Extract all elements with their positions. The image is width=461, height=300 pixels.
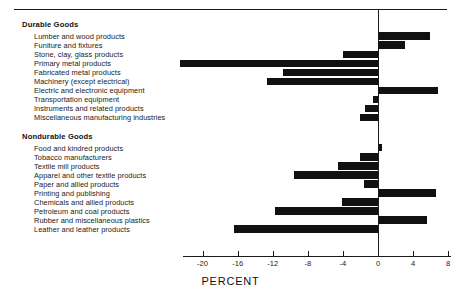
- bar: [338, 162, 378, 170]
- category-label: Chemicals and allied products: [34, 198, 134, 207]
- group-heading-durable: Durable Goods: [22, 20, 78, 29]
- category-label: Leather and leather products: [34, 225, 130, 234]
- x-axis-tick-label: -8: [293, 259, 323, 268]
- bar: [378, 41, 405, 49]
- x-axis-tick-label: 0: [363, 259, 393, 268]
- bar: [294, 171, 378, 179]
- category-label: Paper and allied products: [34, 180, 119, 189]
- bar: [342, 198, 378, 206]
- bar: [365, 105, 378, 113]
- category-label: Machinery (except electrical): [34, 77, 130, 86]
- x-axis-tick-label: 4: [398, 259, 428, 268]
- x-axis-tick-label: -4: [328, 259, 358, 268]
- bar: [378, 216, 427, 224]
- category-label: Printing and publishing: [34, 189, 110, 198]
- bar: [364, 180, 378, 188]
- x-axis-tick: [273, 251, 274, 256]
- category-label: Fabricated metal products: [34, 68, 121, 77]
- category-label: Lumber and wood products: [34, 32, 125, 41]
- category-label: Primary metal products: [34, 59, 111, 68]
- group-heading-nondurable: Nondurable Goods: [22, 132, 93, 141]
- category-label: Instruments and related products: [34, 104, 144, 113]
- bar: [360, 153, 378, 161]
- x-axis-tick: [378, 251, 379, 256]
- category-label: Miscellaneous manufacturing industries: [34, 113, 165, 122]
- x-axis-tick-label: -20: [188, 259, 218, 268]
- x-axis-tick: [203, 251, 204, 256]
- x-axis-tick-label: -16: [223, 259, 253, 268]
- plot-area: Durable GoodsLumber and wood productsFun…: [0, 0, 461, 300]
- x-axis-tick: [238, 251, 239, 256]
- bar: [360, 114, 378, 122]
- category-label: Electric and electronic equipment: [34, 86, 145, 95]
- category-label: Food and kindred products: [34, 144, 123, 153]
- x-axis-tick-label: -12: [258, 259, 288, 268]
- category-label: Petroleum and coal products: [34, 207, 129, 216]
- bar: [267, 78, 378, 86]
- bar: [275, 207, 378, 215]
- category-label: Transportation equipment: [34, 95, 119, 104]
- x-axis-tick: [343, 251, 344, 256]
- x-axis-tick-label: 8: [433, 259, 461, 268]
- bar: [234, 225, 378, 233]
- bar: [378, 87, 438, 95]
- x-axis-tick: [413, 251, 414, 256]
- x-axis-tick: [448, 251, 449, 256]
- category-label: Textile mill products: [34, 162, 100, 171]
- category-label: Stone, clay, glass products: [34, 50, 123, 59]
- category-label: Apparel and other textile products: [34, 171, 146, 180]
- x-axis-tick: [308, 251, 309, 256]
- zero-axis-line: [378, 9, 379, 256]
- bar: [283, 69, 378, 77]
- bar: [343, 51, 378, 59]
- x-axis-title: PERCENT: [0, 275, 461, 287]
- bar: [180, 60, 378, 68]
- category-label: Funiture and fixtures: [34, 41, 102, 50]
- category-label: Rubber and miscellaneous plastics: [34, 216, 150, 225]
- bar: [378, 32, 430, 40]
- category-label: Tobacco manufacturers: [34, 153, 112, 162]
- bar-chart: Durable GoodsLumber and wood productsFun…: [0, 0, 461, 300]
- bar: [378, 189, 436, 197]
- x-axis-line: [183, 256, 451, 257]
